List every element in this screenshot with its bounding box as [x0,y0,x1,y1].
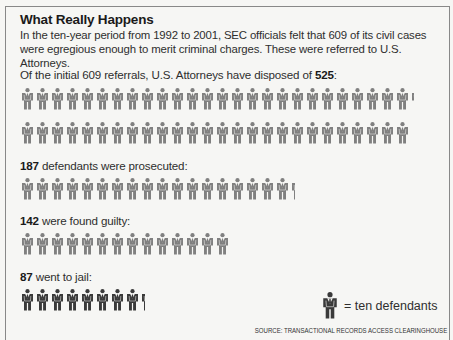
person-icon [140,88,155,110]
person-icon [170,178,185,200]
partial-person-icon [290,178,295,200]
person-icon [80,233,95,255]
value-prosecuted: 187 [20,159,39,172]
person-icon [350,88,365,110]
person-icon [200,122,215,144]
person-icon [20,122,35,144]
person-icon [110,88,125,110]
person-icon [125,122,140,144]
person-icon [35,122,50,144]
person-icon [50,289,65,311]
person-icon [185,88,200,110]
pictogram-row-prosecuted [20,178,295,200]
value-guilty: 142 [20,214,39,227]
person-icon [80,88,95,110]
person-icon [260,88,275,110]
person-icon [215,88,230,110]
person-icon [170,88,185,110]
person-icon [65,289,80,311]
partial-person-icon [230,233,232,255]
pictogram-row-disposed-1 [20,88,414,110]
person-icon [155,178,170,200]
person-icon [185,122,200,144]
person-icon [290,122,305,144]
chart-title: What Really Happens [20,12,153,27]
intro-text: In the ten-year period from 1992 to 2001… [20,28,445,70]
label-guilty: 142 were found guilty: [20,214,130,227]
person-icon [80,178,95,200]
person-icon [155,122,170,144]
person-icon [290,88,305,110]
partial-person-icon [410,88,414,110]
person-icon [50,88,65,110]
person-icon [50,233,65,255]
person-icon [350,122,365,144]
person-icon [185,233,200,255]
person-icon [245,88,260,110]
person-icon [50,178,65,200]
person-icon [365,88,380,110]
person-icon [35,289,50,311]
person-icon [170,233,185,255]
person-icon [110,122,125,144]
person-icon [65,88,80,110]
person-icon [110,233,125,255]
person-icon [80,289,95,311]
person-icon [260,122,275,144]
person-icon [140,122,155,144]
person-icon [335,88,350,110]
person-icon [65,122,80,144]
person-icon [95,289,110,311]
person-icon [170,122,185,144]
person-icon [322,292,338,319]
person-icon [50,122,65,144]
person-icon [275,88,290,110]
pictogram-row-jail [20,289,145,311]
person-icon [110,289,125,311]
person-icon [200,88,215,110]
person-icon [125,88,140,110]
person-icon [155,233,170,255]
person-icon [320,88,335,110]
person-icon [125,289,140,311]
legend-text: = ten defendants [344,299,437,313]
person-icon [215,178,230,200]
value-jail: 87 [20,270,33,283]
person-icon [20,178,35,200]
person-icon [65,178,80,200]
person-icon [245,178,260,200]
person-icon [125,233,140,255]
person-icon [110,178,125,200]
person-icon [35,88,50,110]
person-icon [95,122,110,144]
person-icon [215,122,230,144]
person-icon [125,178,140,200]
label-jail: 87 went to jail: [20,270,92,283]
label-disposed: Of the initial 609 referrals, U.S. Attor… [20,68,337,81]
person-icon [95,178,110,200]
person-icon [140,178,155,200]
person-icon [65,233,80,255]
person-icon [320,122,335,144]
person-icon [20,233,35,255]
legend: = ten defendants [322,292,437,319]
pictogram-row-disposed-2 [20,122,410,144]
person-icon [365,122,380,144]
person-icon [305,122,320,144]
person-icon [155,88,170,110]
person-icon [20,88,35,110]
person-icon [335,122,350,144]
person-icon [380,122,395,144]
person-icon [20,289,35,311]
person-icon [275,122,290,144]
partial-person-icon [140,289,145,311]
person-icon [140,233,155,255]
person-icon [380,88,395,110]
person-icon [200,178,215,200]
source-credit: SOURCE: TRANSACTIONAL RECORDS ACCESS CLE… [255,327,447,334]
person-icon [260,178,275,200]
person-icon [80,122,95,144]
person-icon [230,88,245,110]
person-icon [200,233,215,255]
person-icon [230,178,245,200]
